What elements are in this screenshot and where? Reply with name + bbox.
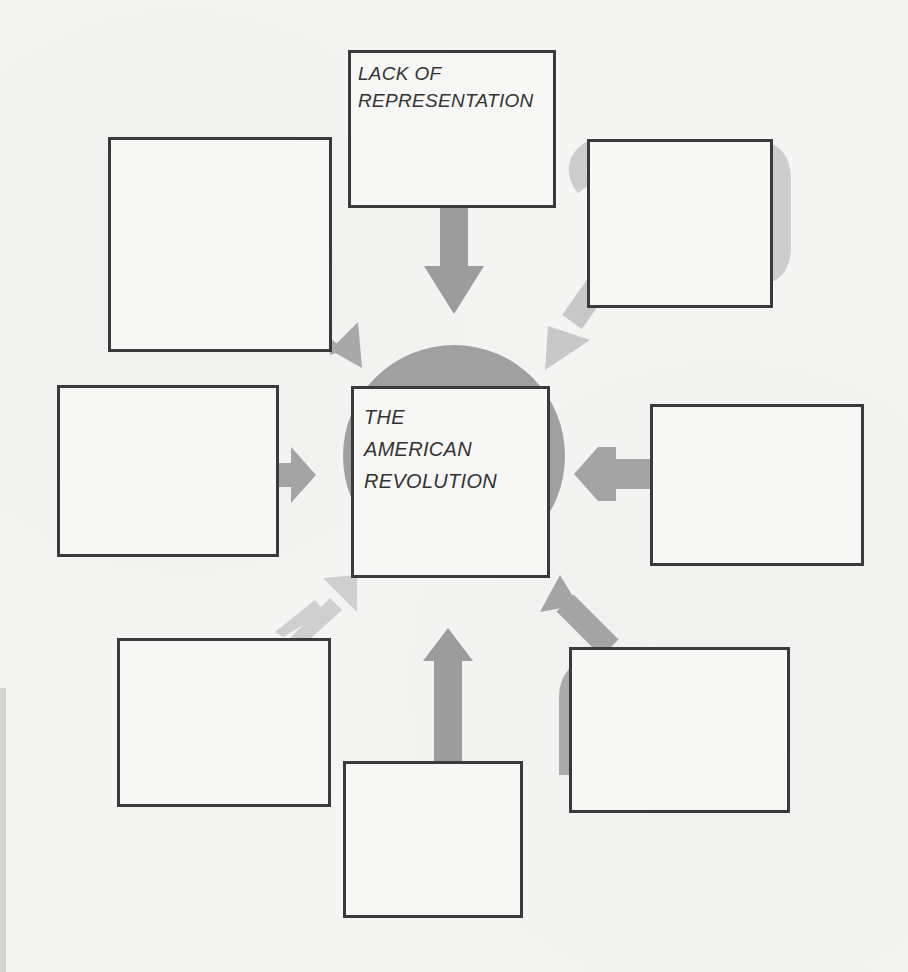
cause-box-bottom-right[interactable] [569,647,790,813]
cause-box-top-right[interactable] [587,139,773,308]
center-box-american-revolution[interactable]: THE AMERICAN REVOLUTION [351,386,550,578]
box-label-top: LACK OF REPRESENTATION [358,60,534,114]
arrow-head-right [574,447,616,501]
arrow-head-left [291,447,316,503]
arrow-shaft-right [615,459,653,489]
arrow-shaft-left [277,463,293,487]
arrow-shaft-bottom [434,660,462,765]
arrow-head-top [424,266,484,314]
arrow-shaft-bottom-right [565,603,610,648]
cause-box-left[interactable] [57,385,279,557]
cause-box-bottom-left[interactable] [117,638,331,807]
arrow-head-top-right [545,326,590,370]
cause-box-top-left[interactable] [108,137,332,352]
arrow-shaft-top [440,205,468,267]
cause-box-bottom[interactable] [343,761,523,918]
center-label: THE AMERICAN REVOLUTION [364,401,497,497]
cause-box-top[interactable]: LACK OF REPRESENTATION [348,50,556,208]
arrow-head-bottom [423,628,473,661]
cause-box-right[interactable] [650,404,864,566]
